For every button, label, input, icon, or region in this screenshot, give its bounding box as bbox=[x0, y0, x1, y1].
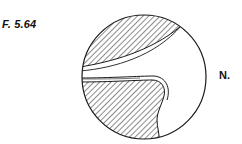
circular-diagram bbox=[0, 0, 242, 144]
